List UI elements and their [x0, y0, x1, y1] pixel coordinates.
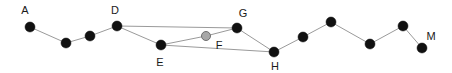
graph-node-g[interactable] — [232, 23, 242, 33]
node-label-g: G — [239, 7, 248, 19]
graph-edge-d-g — [117, 26, 237, 28]
graph-node-a[interactable] — [25, 22, 35, 32]
graph-edge-k-l — [370, 26, 403, 44]
node-label-e: E — [156, 56, 163, 68]
graph-node[interactable] — [85, 31, 95, 41]
graph-node-e[interactable] — [156, 40, 166, 50]
graph-node[interactable] — [326, 17, 336, 27]
graph-node-m[interactable] — [417, 43, 427, 53]
node-label-f: F — [216, 39, 223, 51]
graph-node[interactable] — [298, 32, 308, 42]
graph-edge-e-f — [161, 36, 206, 45]
graph-node-d[interactable] — [112, 21, 122, 31]
graph-edge-d-e — [117, 26, 161, 45]
graph-edge-g-h — [237, 28, 274, 52]
node-label-a: A — [21, 4, 29, 16]
graph-node[interactable] — [398, 21, 408, 31]
graph-svg: ADEFGHM — [0, 0, 452, 73]
node-label-m: M — [426, 30, 435, 42]
node-label-h: H — [271, 60, 279, 72]
diagram-canvas: ADEFGHM — [0, 0, 452, 73]
graph-node-f[interactable] — [202, 32, 211, 41]
graph-node[interactable] — [365, 39, 375, 49]
graph-node-h[interactable] — [269, 47, 279, 57]
graph-node[interactable] — [61, 38, 71, 48]
node-layer — [25, 17, 427, 57]
graph-edge-a-b — [30, 27, 66, 43]
graph-edge-j-k — [331, 22, 370, 44]
node-label-d: D — [111, 4, 119, 16]
